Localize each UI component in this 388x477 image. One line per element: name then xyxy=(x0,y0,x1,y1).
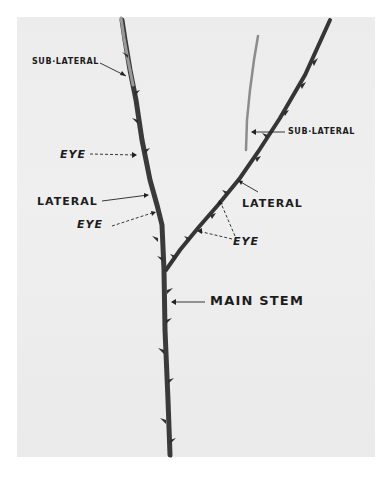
leader-lines xyxy=(90,63,285,302)
right-sub-lateral-shape xyxy=(246,36,258,150)
main-stem-shape xyxy=(122,20,170,455)
figure-plate: SUB·LATERAL EYE LATERAL EYE SUB·LATERAL … xyxy=(0,0,388,477)
label-eye-right: EYE xyxy=(233,236,259,247)
rose-cane-illustration xyxy=(0,0,388,477)
label-lateral-left: LATERAL xyxy=(37,196,98,207)
label-sub-lateral-left: SUB·LATERAL xyxy=(32,58,99,66)
label-sub-lateral-right: SUB·LATERAL xyxy=(288,128,355,136)
label-eye-lower-left: EYE xyxy=(77,219,103,230)
right-lateral-shape xyxy=(166,20,330,270)
label-lateral-right: LATERAL xyxy=(242,198,303,209)
arrow-heads xyxy=(120,71,256,305)
thorns xyxy=(122,52,318,444)
label-main-stem: MAIN STEM xyxy=(210,294,304,307)
label-eye-upper-left: EYE xyxy=(60,149,86,160)
